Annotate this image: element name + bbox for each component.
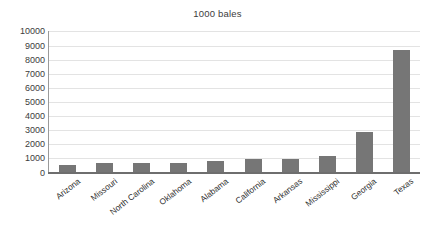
x-tick-label: Texas (392, 176, 415, 197)
bar[interactable] (393, 50, 410, 172)
x-tick-label: California (233, 176, 267, 205)
bar[interactable] (207, 161, 224, 172)
y-axis-tick-labels: 0100020003000400050006000700080009000100… (0, 0, 45, 242)
bar[interactable] (319, 156, 336, 172)
plot-area (49, 31, 420, 172)
bar[interactable] (170, 163, 187, 173)
y-tick-label: 6000 (25, 83, 45, 93)
y-tick-label: 9000 (25, 41, 45, 51)
gridline (49, 60, 420, 61)
bar[interactable] (245, 159, 262, 172)
gridline (49, 88, 420, 89)
y-tick-label: 4000 (25, 111, 45, 121)
x-axis-line (48, 172, 420, 173)
x-tick-label: Georgia (349, 176, 378, 202)
bar[interactable] (96, 163, 113, 173)
y-tick-label: 1000 (25, 153, 45, 163)
chart-title: 1000 bales (0, 8, 435, 19)
gridline (49, 116, 420, 117)
gridline (49, 130, 420, 131)
y-tick-label: 10000 (20, 26, 45, 36)
bar[interactable] (356, 132, 373, 172)
gridline (49, 102, 420, 103)
bar[interactable] (282, 159, 299, 173)
y-tick-label: 8000 (25, 55, 45, 65)
x-tick-label: Mississippi (304, 176, 342, 209)
gridline (49, 46, 420, 47)
x-tick-label: Oklahoma (157, 176, 193, 207)
bar[interactable] (133, 163, 150, 173)
bar-chart: 1000 bales 01000200030004000500060007000… (0, 0, 435, 242)
y-tick-label: 0 (40, 168, 45, 178)
y-tick-label: 3000 (25, 125, 45, 135)
gridline (49, 31, 420, 32)
x-tick-label: Arizona (53, 176, 81, 201)
y-tick-label: 7000 (25, 69, 45, 79)
x-tick-label: Alabama (198, 176, 230, 204)
y-tick-label: 2000 (25, 139, 45, 149)
x-tick-label: Arkansas (271, 176, 304, 205)
gridline (49, 74, 420, 75)
x-tick-label: Missouri (88, 176, 118, 203)
y-tick-label: 5000 (25, 97, 45, 107)
